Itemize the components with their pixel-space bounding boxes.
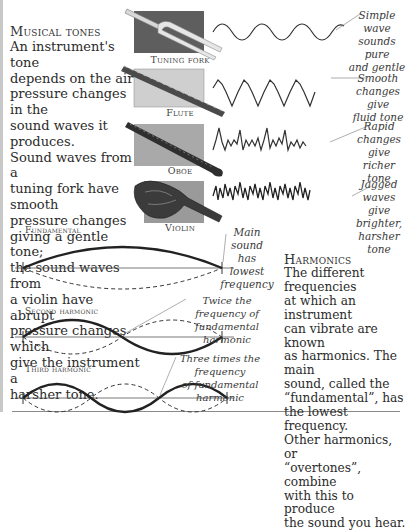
note-line: Rapid: [350, 120, 408, 133]
note-line: has lowest: [220, 252, 274, 278]
caption-tuning-fork: Tuning fork: [144, 54, 216, 65]
note-line: changes give: [348, 85, 408, 111]
harmonics-heading: Harmonics: [284, 252, 352, 267]
text-line: The different frequencies: [284, 267, 408, 295]
caption-flute: Flute: [144, 107, 216, 118]
note-violin: Jagged waves give brighter, harsher tone: [350, 178, 408, 256]
text-line: Other harmonics, or: [284, 434, 408, 462]
note-line: Simple wave: [346, 9, 408, 35]
text-line: the sound you hear.: [284, 517, 408, 531]
label-second-harmonic: Second harmonic: [25, 306, 98, 316]
note-line: harsher tone: [350, 230, 408, 256]
note-line: waves give: [350, 191, 408, 217]
text-line: can vibrate are known: [284, 323, 408, 351]
note-oboe: Rapid changes give richer tone: [350, 120, 408, 185]
text-line: the lowest frequency.: [284, 406, 408, 434]
note-line: sounds pure: [346, 35, 408, 61]
violin-illustration: [134, 181, 222, 223]
caption-oboe: Oboe: [144, 165, 216, 176]
note-line: frequency: [220, 278, 274, 291]
note-second-harmonic: Twice the frequency of fundamental harmo…: [176, 294, 278, 346]
harmonics-body: The different frequencies at which an in…: [284, 267, 408, 531]
note-line: of fundamental harmonic: [168, 378, 272, 404]
note-flute: Smooth changes give fluid tone: [348, 72, 408, 124]
violin-wave: [213, 182, 310, 200]
oboe-wave: [213, 128, 306, 150]
label-third-harmonic: Third harmonic: [25, 364, 91, 374]
text-line: as harmonics. The main: [284, 350, 408, 378]
text-line: “overtones”, combine: [284, 462, 408, 490]
fundamental-diagram: [15, 234, 234, 289]
note-fundamental: Main sound has lowest frequency: [220, 226, 274, 291]
tuning-fork-illustration: [125, 9, 222, 60]
text-line: sound, called the: [284, 378, 408, 392]
note-third-harmonic: Three times the frequency of fundamental…: [168, 352, 272, 404]
note-line: brighter,: [350, 217, 408, 230]
note-line: Twice the frequency of: [176, 294, 278, 320]
text-line: with this to produce: [284, 490, 408, 518]
flute-wave: [213, 80, 315, 106]
note-line: Smooth: [348, 72, 408, 85]
tuning-fork-wave: [213, 24, 344, 40]
note-line: Three times the frequency: [168, 352, 272, 378]
label-fundamental: Fundamental: [25, 225, 81, 235]
note-line: Jagged: [350, 178, 408, 191]
text-line: at which an instrument: [284, 295, 408, 323]
caption-violin: Violin: [144, 222, 216, 233]
note-line: changes give: [350, 133, 408, 159]
note-tuning-fork: Simple wave sounds pure and gentle: [346, 9, 408, 74]
note-line: fundamental harmonic: [176, 320, 278, 346]
note-line: Main sound: [220, 226, 274, 252]
text-line: “fundamental”, has: [284, 392, 408, 406]
